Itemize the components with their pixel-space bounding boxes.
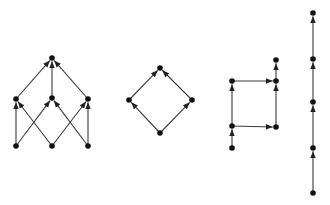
graph-4 — [310, 10, 316, 196]
edge-arrow — [160, 102, 190, 133]
node-dot — [229, 78, 235, 84]
node-dot — [310, 145, 316, 151]
node-dot — [189, 97, 195, 103]
node-dot — [49, 55, 55, 61]
graph-3 — [229, 57, 279, 151]
edge-arrow — [129, 70, 158, 100]
edge-arrow — [52, 102, 86, 146]
edge-arrow — [54, 60, 88, 99]
graph-1 — [13, 55, 91, 149]
node-dot — [310, 56, 316, 62]
node-dot — [13, 143, 19, 149]
node-dot — [49, 95, 55, 101]
diagram-canvas — [0, 0, 330, 205]
node-dot — [49, 143, 55, 149]
node-dot — [157, 130, 163, 136]
node-dot — [273, 124, 279, 130]
edge-arrow — [16, 60, 50, 99]
node-dot — [229, 123, 235, 129]
node-dot — [13, 96, 19, 102]
graphs-svg — [0, 0, 330, 205]
node-dot — [310, 99, 316, 105]
edge-arrow — [131, 102, 160, 133]
edge-arrow — [18, 102, 52, 146]
edge-arrow — [162, 70, 192, 100]
node-dot — [273, 57, 279, 63]
node-dot — [85, 96, 91, 102]
node-dot — [85, 143, 91, 149]
node-dot — [310, 10, 316, 16]
edge-arrow — [16, 101, 50, 146]
graph-layer — [13, 10, 316, 196]
node-dot — [229, 145, 235, 151]
edge-arrow — [232, 126, 273, 127]
node-dot — [126, 97, 132, 103]
graph-2 — [126, 65, 195, 136]
node-dot — [273, 78, 279, 84]
edge-arrow — [54, 101, 88, 146]
node-dot — [310, 190, 316, 196]
node-dot — [157, 65, 163, 71]
